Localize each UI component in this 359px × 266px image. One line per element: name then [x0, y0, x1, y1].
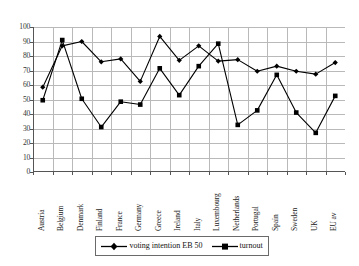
y-axis-tick-label: 40	[23, 110, 30, 118]
x-axis-label-sweden: Sweden	[291, 208, 299, 231]
data-point-square	[60, 38, 65, 43]
chart-legend: voting intention EB 50 turnout	[95, 236, 269, 256]
y-axis-tick-label: 70	[23, 67, 30, 75]
data-point-diamond	[255, 69, 260, 74]
square-marker-icon	[212, 242, 238, 251]
data-point-diamond	[235, 57, 240, 62]
data-point-square	[157, 66, 162, 71]
x-axis-label-luxembourg: Luxembourg	[213, 193, 221, 231]
y-axis-tick-label: 60	[23, 81, 30, 89]
data-point-diamond	[313, 72, 318, 77]
data-point-diamond	[274, 64, 279, 69]
x-axis-label-germany: Germany	[135, 204, 143, 231]
data-point-diamond	[333, 60, 338, 65]
data-point-square	[138, 102, 143, 107]
data-point-square	[274, 73, 279, 78]
x-axis-label-finland: Finland	[96, 209, 104, 231]
data-point-square	[294, 110, 299, 115]
series-layer	[33, 27, 345, 172]
y-axis-tick-label: 100	[19, 23, 30, 31]
x-axis-tick	[345, 172, 346, 175]
series-line	[43, 36, 336, 87]
data-point-diamond	[294, 69, 299, 74]
y-axis-tick-labels: 0102030405060708090100	[0, 27, 30, 172]
data-point-square	[79, 96, 84, 101]
data-point-square	[255, 108, 260, 113]
diamond-marker-icon	[101, 242, 127, 251]
y-axis-tick-label: 10	[23, 154, 30, 162]
y-axis-tick-label: 80	[23, 52, 30, 60]
legend-label-voting-intention: voting intention EB 50	[129, 242, 202, 250]
y-axis-tick-label: 90	[23, 38, 30, 46]
x-axis-label-uk: UK	[311, 220, 319, 231]
data-point-square	[118, 99, 123, 104]
legend-entry-voting-intention: voting intention EB 50	[101, 242, 202, 251]
series-line	[43, 40, 336, 133]
data-point-square	[313, 131, 318, 136]
legend-entry-turnout: turnout	[212, 242, 263, 251]
x-axis-label-spain: Spain	[272, 214, 280, 231]
data-point-diamond	[40, 85, 45, 90]
y-axis-tick-label: 30	[23, 125, 30, 133]
data-point-square	[40, 98, 45, 103]
x-axis-label-austria: Austria	[38, 210, 46, 231]
legend-label-turnout: turnout	[240, 242, 263, 250]
plot-area	[33, 27, 345, 172]
x-axis-label-eu-av: EU av	[330, 213, 338, 231]
x-axis-label-denmark: Denmark	[77, 204, 85, 231]
x-axis-label-france: France	[116, 211, 124, 231]
x-axis-label-greece: Greece	[155, 210, 163, 231]
line-chart: 0102030405060708090100 AustriaBelgiumDen…	[0, 0, 359, 266]
x-axis-label-italy: Italy	[194, 218, 202, 231]
data-point-square	[99, 125, 104, 130]
data-point-square	[196, 64, 201, 69]
x-axis-label-portugal: Portugal	[252, 206, 260, 231]
y-axis-tick-label: 50	[23, 96, 30, 104]
data-point-square	[177, 93, 182, 98]
series-turnout	[40, 38, 337, 135]
y-axis-tick-label: 20	[23, 139, 30, 147]
x-axis-category-labels: AustriaBelgiumDenmarkFinlandFranceGerman…	[33, 175, 345, 231]
data-point-square	[333, 94, 338, 99]
x-axis-label-ireland: Ireland	[174, 210, 182, 231]
x-axis-label-belgium: Belgium	[57, 206, 65, 231]
data-point-square	[235, 123, 240, 128]
data-point-square	[216, 41, 221, 46]
x-axis-label-netherlands: Netherlands	[233, 196, 241, 231]
